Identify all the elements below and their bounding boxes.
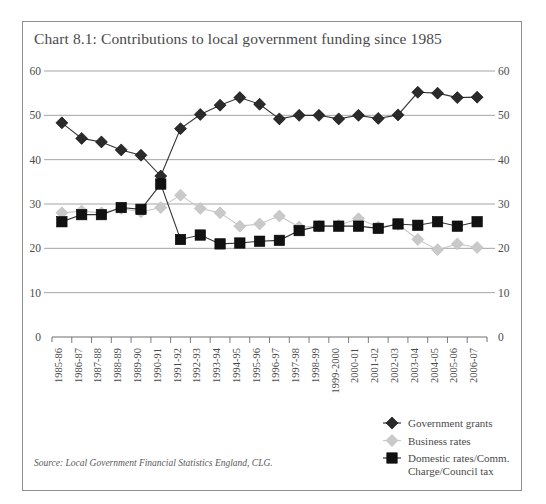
x-axis-category-label: 1991-92: [172, 348, 183, 383]
legend-label-cont: Charge/Council tax: [408, 465, 494, 477]
data-point: [194, 108, 206, 120]
data-point: [451, 92, 463, 104]
data-point: [314, 221, 324, 231]
data-point: [273, 113, 285, 125]
y-axis-tick-label-right: 30: [498, 198, 510, 210]
data-point: [175, 234, 185, 244]
y-axis-tick-label-left: 20: [30, 242, 42, 254]
data-point: [273, 210, 285, 222]
data-point: [413, 220, 423, 230]
data-point: [96, 209, 106, 219]
x-axis-category-label: 1993-94: [211, 347, 222, 383]
data-point: [313, 109, 325, 121]
x-axis-category-label: 2006-07: [468, 348, 479, 383]
x-axis-category-label: 1997-98: [290, 348, 301, 383]
x-axis-category-label: 1985-86: [53, 348, 64, 383]
data-point: [294, 225, 304, 235]
x-axis-category-label: 1996-97: [270, 348, 281, 383]
data-point: [432, 244, 444, 256]
data-point: [76, 132, 88, 144]
data-point: [175, 189, 187, 201]
data-point: [214, 99, 226, 111]
data-point: [334, 221, 344, 231]
x-axis-category-label: 1986-87: [73, 348, 84, 383]
data-point: [333, 113, 345, 125]
data-point: [156, 179, 166, 189]
data-point: [373, 223, 383, 233]
data-point: [95, 136, 107, 148]
legend-label: Business rates: [408, 435, 471, 447]
data-point: [155, 202, 167, 214]
x-axis-category-label: 1990-91: [152, 348, 163, 383]
y-axis-tick-label-right: 10: [498, 287, 510, 299]
data-point: [254, 218, 266, 230]
plot-area: 001010202030304040505060601985-861986-87…: [0, 0, 546, 504]
chart-page: Chart 8.1: Contributions to local govern…: [0, 0, 546, 504]
x-axis-category-label: 2002-03: [389, 348, 400, 383]
x-axis-category-label: 2003-04: [409, 347, 420, 383]
chart-legend: Government grantsBusiness ratesDomestic …: [383, 417, 510, 477]
x-axis-category-label: 2000-01: [349, 348, 360, 383]
legend-marker-square: [387, 453, 397, 463]
data-point: [136, 204, 146, 214]
y-axis-tick-label-left: 40: [30, 154, 42, 166]
x-axis-category-label: 1995-96: [251, 348, 262, 383]
data-point: [175, 123, 187, 135]
legend-marker-diamond: [386, 417, 398, 429]
x-axis-category-label: 2001-02: [369, 348, 380, 383]
x-axis-category-label: 1992-93: [191, 348, 202, 383]
data-point: [393, 219, 403, 229]
data-point: [293, 109, 305, 121]
y-axis-tick-label-right: 40: [498, 154, 510, 166]
series-line: [62, 184, 477, 244]
data-point: [412, 233, 424, 245]
x-axis-category-label: 2005-06: [448, 348, 459, 383]
data-point: [116, 202, 126, 212]
x-axis-category-label: 1998-99: [310, 348, 321, 383]
data-point: [214, 207, 226, 219]
data-point: [254, 98, 266, 110]
y-axis-tick-label-left: 60: [30, 65, 42, 77]
legend-label: Domestic rates/Comm.: [408, 452, 510, 464]
data-point: [452, 221, 462, 231]
data-point: [471, 91, 483, 103]
data-point: [472, 217, 482, 227]
data-point: [195, 230, 205, 240]
y-axis-tick-label-right: 20: [498, 242, 510, 254]
data-point: [352, 109, 364, 121]
data-point: [254, 236, 264, 246]
y-axis-tick-label-right: 0: [498, 331, 504, 343]
data-point: [432, 87, 444, 99]
series-government-grants: [56, 86, 483, 182]
x-axis-category-label: 1988-89: [112, 348, 123, 383]
legend-label: Government grants: [408, 417, 493, 429]
x-axis-category-label: 1987-88: [92, 348, 103, 383]
data-point: [215, 239, 225, 249]
data-point: [432, 217, 442, 227]
data-point: [115, 144, 127, 156]
legend-marker-diamond: [386, 435, 398, 447]
y-axis-tick-label-right: 50: [498, 109, 510, 121]
chart-svg: 001010202030304040505060601985-861986-87…: [0, 0, 546, 504]
data-point: [235, 238, 245, 248]
data-point: [372, 112, 384, 124]
y-axis-tick-label-left: 30: [30, 198, 42, 210]
y-axis-tick-label-right: 60: [498, 65, 510, 77]
data-point: [353, 221, 363, 231]
data-point: [56, 117, 68, 129]
x-axis-category-label: 1989-90: [132, 348, 143, 383]
source-note: Source: Local Government Financial Stati…: [34, 458, 273, 468]
data-point: [471, 241, 483, 253]
y-axis-tick-label-left: 0: [35, 331, 41, 343]
data-point: [76, 209, 86, 219]
y-axis-tick-label-left: 50: [30, 109, 42, 121]
data-point: [274, 235, 284, 245]
y-axis-tick-label-left: 10: [30, 287, 42, 299]
x-axis-category-label: 2004-05: [429, 348, 440, 383]
data-point: [234, 220, 246, 232]
series-line: [62, 92, 477, 176]
x-axis-category-label: 1999-2000: [330, 348, 341, 394]
data-point: [57, 217, 67, 227]
x-axis-category-label: 1994-95: [231, 348, 242, 383]
data-point: [234, 92, 246, 104]
